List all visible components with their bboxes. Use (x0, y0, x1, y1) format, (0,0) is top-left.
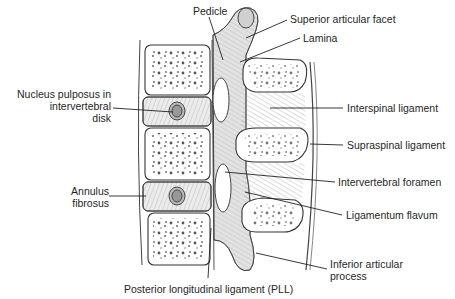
vertebral-bodies (145, 45, 210, 265)
label-supraspinal-ligament: Supraspinal ligament (347, 139, 445, 151)
supraspinal-ligament (306, 62, 313, 270)
label-lamina: Lamina (303, 32, 337, 44)
label-pll: Posterior longitudinal ligament (PLL) (124, 283, 293, 295)
anterior-edge (138, 40, 142, 265)
label-inferior-articular-process: Inferior articular process (330, 258, 403, 282)
anatomy-diagram: Pedicle Superior articular facet Lamina … (0, 0, 455, 299)
spinous-processes (236, 58, 308, 232)
label-annulus-fibrosus: Annulus fibrosus (0, 185, 109, 209)
label-intervertebral-foramen: Intervertebral foramen (338, 176, 441, 188)
label-pedicle: Pedicle (193, 5, 227, 17)
label-superior-articular-facet: Superior articular facet (290, 13, 396, 25)
label-ligamentum-flavum: Ligamentum flavum (346, 209, 438, 221)
label-interspinal-ligament: Interspinal ligament (347, 102, 438, 114)
label-nucleus-pulposus: Nucleus pulposus in intervertebral disk (0, 88, 111, 124)
